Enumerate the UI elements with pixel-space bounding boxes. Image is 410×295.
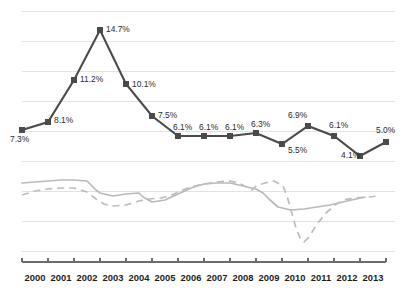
x-axis-label-2007: 2007 [207,272,228,283]
data-point-marker [331,133,337,139]
data-label-2001: 8.1% [54,115,74,125]
data-point-marker [45,119,51,125]
data-point-marker [149,113,155,119]
primary-series-markers [19,27,389,159]
data-label-2002: 11.2% [80,74,104,84]
data-point-marker [383,139,389,145]
data-point-marker [97,27,103,33]
data-point-marker [123,81,129,87]
x-axis-label-2013: 2013 [363,272,384,283]
secondary-series-solid [22,180,365,210]
data-label-2011: 6.9% [288,110,308,120]
x-axis-label-2003: 2003 [103,272,124,283]
x-axis-labels: 2000 2001 2002 2003 2004 2005 2006 2007 … [25,272,384,283]
data-label-2005: 7.5% [158,110,178,120]
x-axis-label-2001: 2001 [51,272,72,283]
x-axis [22,258,386,262]
x-axis-label-2002: 2002 [77,272,98,283]
line-chart: 7.3% 8.1% 11.2% 14.7% 10.1% 7.5% 6.1% 6.… [0,0,410,295]
x-axis-label-2004: 2004 [129,272,151,283]
x-axis-label-2009: 2009 [259,272,280,283]
data-label-2009: 6.3% [251,119,271,129]
data-label-2000: 7.3% [10,134,30,144]
x-axis-label-2012: 2012 [337,272,358,283]
x-axis-label-2008: 2008 [233,272,254,283]
data-label-2014: 5.0% [376,125,396,135]
data-point-marker [227,133,233,139]
secondary-series-dashed [22,181,378,242]
data-point-marker [253,130,259,136]
data-point-marker [305,123,311,129]
data-label-2004: 10.1% [132,79,156,89]
data-label-2008: 6.1% [225,122,245,132]
x-axis-label-2011: 2011 [311,272,331,283]
data-label-2013: 4.1% [341,150,361,160]
data-point-marker [71,77,77,83]
data-point-marker [19,127,25,133]
data-label-2006: 6.1% [173,122,193,132]
x-axis-label-2006: 2006 [181,272,202,283]
x-axis-label-2005: 2005 [155,272,176,283]
data-point-marker [175,133,181,139]
x-axis-label-2010: 2010 [285,272,306,283]
data-label-2003: 14.7% [106,24,130,34]
data-label-2007: 6.1% [199,122,219,132]
x-axis-label-2000: 2000 [25,272,46,283]
data-point-marker [279,141,285,147]
data-point-marker [201,133,207,139]
data-label-2012: 6.1% [329,120,349,130]
data-label-2010: 5.5% [288,145,308,155]
